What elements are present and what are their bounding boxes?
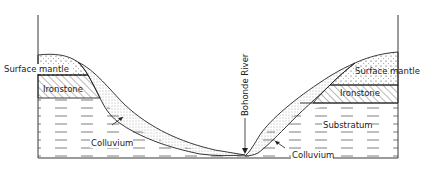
label-colluvium-left: Colluvium xyxy=(91,138,133,148)
arrow-down-icon xyxy=(242,148,248,154)
label-ironstone-left: Ironstone xyxy=(43,84,83,94)
label-substratum: Substratum xyxy=(323,120,373,130)
label-ironstone-right: Ironstone xyxy=(340,88,380,98)
label-river: Bohonde River xyxy=(240,53,250,116)
label-surface-mantle-right: Surface mantle xyxy=(355,66,420,76)
label-surface-mantle-left: Surface mantle xyxy=(4,64,69,74)
label-colluvium-right: Colluvium xyxy=(292,150,334,160)
cross-section-diagram: Surface mantle Ironstone Colluvium Bohon… xyxy=(0,0,429,175)
